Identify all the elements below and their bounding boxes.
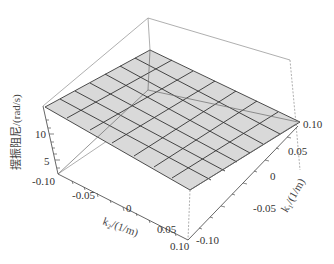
- z-axis-label: 摆振阻尼/(rad/s): [9, 94, 23, 170]
- y-tick-010: 0.10: [303, 118, 323, 130]
- y-tick-005: 0.05: [288, 145, 308, 157]
- x-tick-neg005: -0.05: [72, 189, 95, 201]
- x-tick-010: 0.10: [170, 240, 190, 252]
- x-tick-005: 0.05: [157, 223, 177, 235]
- y-tick-neg010: -0.10: [196, 234, 219, 246]
- x-axis-label: k₂/(1/m): [101, 215, 140, 240]
- y-axis-label: k₁/(1/m): [278, 176, 308, 215]
- y-tick-neg005: -0.05: [253, 202, 276, 214]
- z-tick-5: 5: [44, 155, 50, 167]
- y-tick-0: 0: [270, 170, 276, 182]
- z-tick-10: 10: [35, 128, 47, 140]
- surface: [45, 50, 300, 190]
- x-axis: -0.10 -0.05 0 0.05 0.10 k₂/(1/m): [32, 174, 190, 252]
- x-tick-neg010: -0.10: [32, 175, 55, 187]
- x-tick-0: 0: [126, 202, 132, 214]
- surface-plot: 10 5 摆振阻尼/(rad/s) -0.10 -0.05 0 0.05 0.1…: [0, 0, 334, 264]
